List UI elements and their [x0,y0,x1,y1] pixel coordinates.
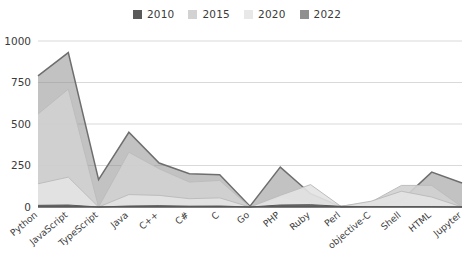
x-tick-label-C#: C# [173,209,191,227]
y-tick-label: 1000 [4,35,31,47]
gridlines [38,41,462,166]
x-tick-label-Java: Java [107,209,130,231]
x-tick-label-Shell: Shell [378,209,402,232]
area-chart: 2010201520202022 02505007501000 PythonJa… [0,0,474,275]
x-tick-label-Ruby: Ruby [287,209,312,233]
x-tick-label-C++: C++ [137,209,161,231]
y-axis-tick-labels: 02505007501000 [4,35,31,213]
x-tick-label-Jupyter: Jupyter [430,209,463,239]
y-tick-label: 750 [11,76,31,88]
x-axis-tick-labels: PythonJavaScriptTypeScriptJavaC++C#CGoPH… [8,209,464,251]
x-tick-label-PHP: PHP [261,209,282,229]
x-tick-label-HTML: HTML [406,209,433,234]
y-tick-label: 500 [11,118,31,130]
x-tick-label-C: C [209,209,221,222]
x-tick-label-Go: Go [234,209,251,226]
plot-area: 02505007501000 PythonJavaScriptTypeScrip… [0,0,474,275]
series-area-2022 [38,53,462,207]
series-areas [38,53,462,207]
x-tick-label-Perl: Perl [322,209,342,228]
y-tick-label: 250 [11,159,31,171]
